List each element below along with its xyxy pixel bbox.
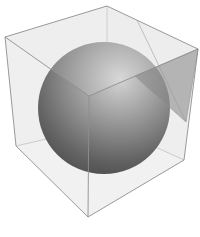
cube-sphere-diagram: [0, 0, 200, 237]
